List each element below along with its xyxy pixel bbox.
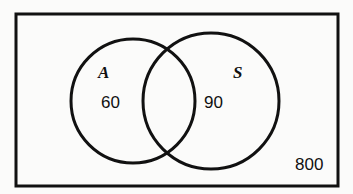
set-count-s: 90 xyxy=(204,94,223,111)
venn-diagram-figure: A 60 S 90 800 xyxy=(0,0,353,194)
circle-set-a xyxy=(71,39,195,163)
set-count-a: 60 xyxy=(101,94,120,111)
set-label-a: A xyxy=(98,64,109,81)
universal-set-count: 800 xyxy=(295,156,323,173)
set-label-s: S xyxy=(233,64,242,81)
